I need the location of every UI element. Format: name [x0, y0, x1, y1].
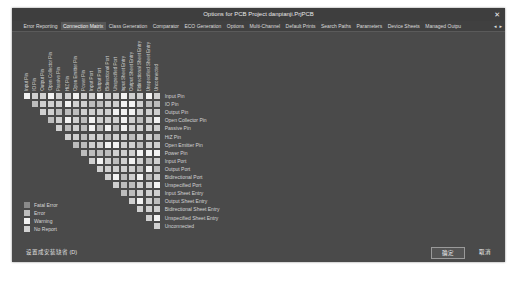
matrix-cell[interactable] [129, 134, 135, 140]
close-icon[interactable]: ✕ [494, 8, 500, 21]
matrix-cell[interactable] [65, 109, 71, 115]
matrix-cell[interactable] [154, 134, 160, 140]
matrix-cell[interactable] [113, 109, 119, 115]
matrix-cell[interactable] [154, 215, 160, 221]
matrix-cell[interactable] [137, 198, 143, 204]
matrix-cell[interactable] [146, 174, 152, 180]
matrix-cell[interactable] [121, 150, 127, 156]
tab-scroll-arrows[interactable]: ◂▸ [494, 23, 505, 29]
matrix-cell[interactable] [146, 134, 152, 140]
matrix-cell[interactable] [146, 150, 152, 156]
matrix-cell[interactable] [81, 109, 87, 115]
matrix-cell[interactable] [65, 93, 71, 99]
matrix-cell[interactable] [121, 158, 127, 164]
matrix-cell[interactable] [56, 93, 62, 99]
matrix-cell[interactable] [73, 93, 79, 99]
matrix-cell[interactable] [97, 158, 103, 164]
matrix-cell[interactable] [121, 190, 127, 196]
matrix-cell[interactable] [65, 134, 71, 140]
matrix-cell[interactable] [105, 166, 111, 172]
matrix-cell[interactable] [121, 182, 127, 188]
matrix-cell[interactable] [81, 150, 87, 156]
matrix-cell[interactable] [89, 93, 95, 99]
matrix-cell[interactable] [73, 109, 79, 115]
matrix-cell[interactable] [56, 117, 62, 123]
matrix-cell[interactable] [97, 166, 103, 172]
matrix-cell[interactable] [105, 109, 111, 115]
matrix-cell[interactable] [137, 134, 143, 140]
matrix-cell[interactable] [40, 101, 46, 107]
matrix-cell[interactable] [129, 101, 135, 107]
matrix-cell[interactable] [89, 134, 95, 140]
matrix-cell[interactable] [154, 117, 160, 123]
matrix-cell[interactable] [105, 150, 111, 156]
cancel-button[interactable]: 取消 [471, 247, 499, 257]
matrix-cell[interactable] [137, 93, 143, 99]
tab-error-reporting[interactable]: Error Reporting [21, 22, 60, 30]
matrix-cell[interactable] [146, 215, 152, 221]
tab-search-paths[interactable]: Search Paths [319, 22, 354, 30]
tab-default-prints[interactable]: Default Prints [283, 22, 318, 30]
tab-comparator[interactable]: Comparator [150, 22, 181, 30]
matrix-cell[interactable] [129, 190, 135, 196]
matrix-cell[interactable] [97, 93, 103, 99]
matrix-cell[interactable] [146, 182, 152, 188]
matrix-cell[interactable] [48, 101, 54, 107]
matrix-cell[interactable] [137, 206, 143, 212]
matrix-cell[interactable] [89, 142, 95, 148]
matrix-cell[interactable] [97, 150, 103, 156]
matrix-cell[interactable] [89, 101, 95, 107]
matrix-cell[interactable] [105, 134, 111, 140]
tab-parameters[interactable]: Parameters [354, 22, 385, 30]
matrix-cell[interactable] [146, 198, 152, 204]
matrix-cell[interactable] [129, 150, 135, 156]
matrix-cell[interactable] [121, 109, 127, 115]
matrix-cell[interactable] [89, 117, 95, 123]
matrix-cell[interactable] [105, 125, 111, 131]
matrix-cell[interactable] [40, 93, 46, 99]
set-to-installation-defaults-button[interactable]: 设置成安装缺省 (D) [26, 248, 77, 256]
matrix-cell[interactable] [146, 190, 152, 196]
tab-device-sheets[interactable]: Device Sheets [385, 22, 422, 30]
matrix-cell[interactable] [56, 109, 62, 115]
matrix-cell[interactable] [121, 101, 127, 107]
matrix-cell[interactable] [81, 93, 87, 99]
chevron-right-icon[interactable]: ▸ [499, 23, 502, 29]
matrix-cell[interactable] [65, 125, 71, 131]
matrix-cell[interactable] [81, 101, 87, 107]
matrix-cell[interactable] [137, 158, 143, 164]
matrix-cell[interactable] [89, 125, 95, 131]
matrix-cell[interactable] [89, 158, 95, 164]
matrix-cell[interactable] [146, 93, 152, 99]
matrix-cell[interactable] [154, 190, 160, 196]
matrix-cell[interactable] [121, 134, 127, 140]
matrix-cell[interactable] [40, 109, 46, 115]
matrix-cell[interactable] [113, 174, 119, 180]
matrix-cell[interactable] [129, 142, 135, 148]
matrix-cell[interactable] [73, 142, 79, 148]
matrix-cell[interactable] [73, 134, 79, 140]
matrix-cell[interactable] [97, 117, 103, 123]
matrix-cell[interactable] [97, 101, 103, 107]
matrix-cell[interactable] [146, 142, 152, 148]
matrix-cell[interactable] [48, 117, 54, 123]
matrix-cell[interactable] [154, 93, 160, 99]
matrix-cell[interactable] [146, 158, 152, 164]
matrix-cell[interactable] [146, 117, 152, 123]
matrix-cell[interactable] [113, 134, 119, 140]
matrix-cell[interactable] [73, 101, 79, 107]
matrix-cell[interactable] [121, 117, 127, 123]
matrix-cell[interactable] [154, 142, 160, 148]
matrix-cell[interactable] [154, 150, 160, 156]
matrix-cell[interactable] [73, 117, 79, 123]
matrix-cell[interactable] [137, 166, 143, 172]
matrix-cell[interactable] [56, 125, 62, 131]
matrix-cell[interactable] [97, 142, 103, 148]
matrix-cell[interactable] [129, 158, 135, 164]
matrix-cell[interactable] [137, 109, 143, 115]
matrix-cell[interactable] [129, 109, 135, 115]
matrix-cell[interactable] [121, 93, 127, 99]
matrix-cell[interactable] [137, 142, 143, 148]
matrix-cell[interactable] [113, 117, 119, 123]
matrix-cell[interactable] [137, 125, 143, 131]
